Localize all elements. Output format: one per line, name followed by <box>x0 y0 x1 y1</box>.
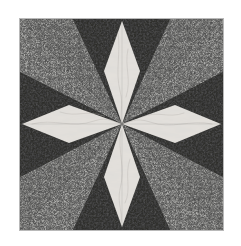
quilt-block-image <box>19 18 224 231</box>
page-root <box>0 0 241 246</box>
quilt-block-svg <box>20 19 223 230</box>
